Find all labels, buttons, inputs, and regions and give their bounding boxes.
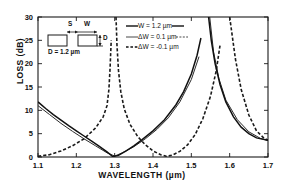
x-tick-label: 1.6 — [224, 161, 234, 170]
x-axis-title: WAVELENGTH (µm) — [0, 170, 284, 180]
y-tick-label: 10 — [25, 106, 33, 115]
legend-swatch-thin — [126, 33, 138, 41]
inset-label-s: S — [68, 20, 72, 27]
chart-legend: W = 1.2 µm ΔW = 0.1 µm ΔW = -0.1 µm — [126, 21, 188, 53]
x-tick-label: 1.2 — [71, 161, 81, 170]
inset-w-arrowhead — [94, 30, 97, 33]
y-tick-label: 20 — [25, 59, 33, 68]
y-tick-labels: 051015202530 — [25, 13, 33, 162]
y-tick-label: 25 — [25, 36, 33, 45]
inset-d-arrowhead-top — [98, 35, 101, 38]
inset-waveguide-diagram: S W D D = 1.2 µm — [47, 22, 119, 60]
inset-label-w: W — [84, 20, 90, 27]
legend-item-0: W = 1.2 µm — [126, 21, 188, 32]
legend-label-2: ΔW = -0.1 µm — [138, 43, 179, 50]
legend-label-0: W = 1.2 µm — [138, 22, 172, 29]
legend-swatch-dashed — [126, 43, 138, 51]
x-tick-label: 1.7 — [263, 161, 273, 170]
y-axis-title: LOSS (dB) — [15, 21, 25, 101]
y-tick-label: 5 — [29, 129, 33, 138]
inset-s-arrowhead-right — [75, 30, 78, 33]
y-tick-label: 30 — [25, 13, 33, 22]
legend-item-2: ΔW = -0.1 µm — [126, 42, 188, 53]
inset-rib-right — [78, 35, 97, 46]
legend-swatch-thin-right — [176, 33, 188, 41]
inset-s-arrowhead-left — [67, 30, 70, 33]
inset-d-arrowhead-bottom — [98, 43, 101, 46]
inset-caption: D = 1.2 µm — [48, 48, 80, 55]
legend-swatch-solid — [126, 22, 138, 30]
y-tick-label: 15 — [25, 83, 33, 92]
x-tick-labels: 1.11.21.31.41.51.61.7 — [33, 161, 273, 170]
chart-figure: 1.11.21.31.41.51.61.7 051015202530 LOSS … — [0, 0, 284, 190]
x-tick-label: 1.5 — [186, 161, 196, 170]
x-tick-label: 1.4 — [148, 161, 159, 170]
y-tick-label: 0 — [29, 153, 33, 162]
x-tick-label: 1.1 — [33, 161, 43, 170]
inset-rib-left — [48, 35, 67, 46]
x-tick-label: 1.3 — [109, 161, 119, 170]
legend-swatch-solid-right — [172, 22, 184, 30]
inset-label-d: D — [103, 34, 108, 41]
legend-item-1: ΔW = 0.1 µm — [126, 32, 188, 43]
legend-label-1: ΔW = 0.1 µm — [138, 33, 176, 40]
